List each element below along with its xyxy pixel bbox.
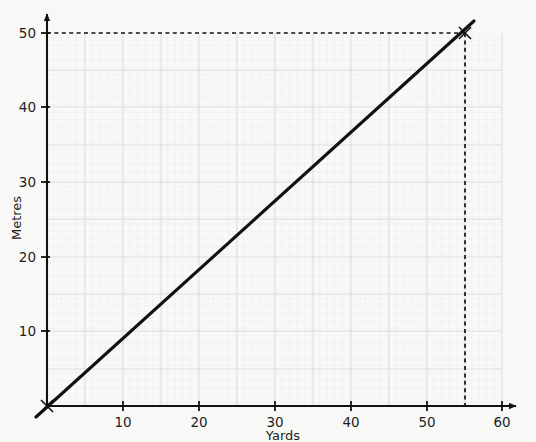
- y-axis-title: Metres: [9, 196, 24, 240]
- x-tick-label-40: 40: [342, 414, 359, 430]
- x-tick-label-50: 50: [418, 414, 435, 430]
- y-tick-label-10: 10: [19, 323, 36, 339]
- conversion-graph: 50 40 30 20 10 10 20 30 40 50 60 Metres …: [0, 0, 536, 442]
- y-tick-label-30: 30: [19, 174, 36, 190]
- y-tick-label-40: 40: [19, 99, 36, 115]
- x-tick-label-10: 10: [114, 414, 131, 430]
- x-tick-label-60: 60: [493, 414, 510, 430]
- y-tick-label-20: 20: [19, 249, 36, 265]
- x-tick-label-20: 20: [190, 414, 207, 430]
- x-axis-title: Yards: [265, 428, 300, 442]
- chart-svg: 50 40 30 20 10 10 20 30 40 50 60 Metres …: [0, 0, 536, 442]
- grid-area: [47, 33, 502, 406]
- y-tick-label-50: 50: [19, 25, 36, 41]
